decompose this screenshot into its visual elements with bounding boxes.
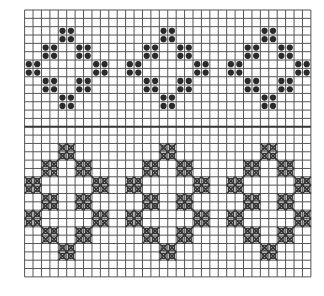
filled-dot-icon <box>101 69 107 75</box>
crossed-circle-icon <box>75 193 83 201</box>
crossed-circle-icon <box>168 252 176 260</box>
crossed-circle-icon <box>126 219 134 227</box>
crossed-circle-icon <box>244 202 252 210</box>
filled-dot-icon <box>245 78 251 84</box>
filled-dot-icon <box>85 44 91 50</box>
crossed-circle-icon <box>235 185 243 193</box>
crossed-circle-icon <box>84 193 92 201</box>
crossed-circle-icon <box>151 202 159 210</box>
crossed-circle-icon <box>75 160 83 168</box>
filled-dot-icon <box>236 61 242 67</box>
filled-dot-icon <box>144 78 150 84</box>
filled-dot-icon <box>34 61 40 67</box>
filled-dot-icon <box>152 53 158 59</box>
crossed-circle-icon <box>302 210 310 218</box>
filled-dot-icon <box>51 44 57 50</box>
crossed-circle-icon <box>50 227 58 235</box>
crossed-circle-icon <box>269 252 277 260</box>
crossed-circle-icon <box>159 152 167 160</box>
filled-dot-icon <box>270 103 276 109</box>
filled-dot-icon <box>26 69 32 75</box>
filled-dot-icon <box>261 36 267 42</box>
filled-dot-icon <box>43 53 49 59</box>
crossed-circle-icon <box>277 235 285 243</box>
crossed-circle-icon <box>252 202 260 210</box>
filled-dot-icon <box>127 61 133 67</box>
filled-dot-icon <box>194 61 200 67</box>
crossed-circle-icon <box>185 168 193 176</box>
filled-dot-icon <box>270 36 276 42</box>
filled-dot-icon <box>177 44 183 50</box>
crossed-circle-icon <box>126 210 134 218</box>
filled-dot-icon <box>287 86 293 92</box>
crossed-circle-icon <box>41 193 49 201</box>
crossed-circle-icon <box>286 202 294 210</box>
filled-dot-icon <box>186 78 192 84</box>
crossed-circle-icon <box>159 244 167 252</box>
crossed-circle-icon <box>142 160 150 168</box>
crossed-circle-icon <box>176 202 184 210</box>
crossed-circle-icon <box>244 227 252 235</box>
crossed-circle-icon <box>193 219 201 227</box>
crossed-circle-icon <box>260 152 268 160</box>
crossed-circle-icon <box>100 185 108 193</box>
crossed-circle-icon <box>159 143 167 151</box>
filled-dot-icon <box>85 78 91 84</box>
crossed-circle-icon <box>286 227 294 235</box>
filled-dot-icon <box>253 53 259 59</box>
filled-dot-icon <box>68 94 74 100</box>
crossed-circle-icon <box>58 152 66 160</box>
filled-dot-icon <box>186 44 192 50</box>
crossed-circle-icon <box>25 210 33 218</box>
crossed-circle-icon <box>151 160 159 168</box>
crossed-circle-icon <box>126 177 134 185</box>
crossed-circle-icon <box>235 219 243 227</box>
crossed-circle-icon <box>41 235 49 243</box>
crossed-circle-icon <box>252 168 260 176</box>
crossed-circle-icon <box>41 202 49 210</box>
crossed-circle-icon <box>75 202 83 210</box>
filled-dot-icon <box>228 69 234 75</box>
crossed-circle-icon <box>269 152 277 160</box>
filled-dot-icon <box>43 86 49 92</box>
crossed-circle-icon <box>168 143 176 151</box>
crossed-circle-icon <box>185 160 193 168</box>
crossed-circle-icon <box>33 185 41 193</box>
crossed-circle-icon <box>176 160 184 168</box>
crossed-circle-icon <box>302 219 310 227</box>
crossed-circle-icon <box>260 143 268 151</box>
filled-dot-icon <box>93 69 99 75</box>
crossed-circle-icon <box>277 168 285 176</box>
crossed-circle-icon <box>142 193 150 201</box>
crossed-circle-icon <box>277 227 285 235</box>
crossed-circle-icon <box>176 235 184 243</box>
filled-dot-icon <box>135 61 141 67</box>
crossed-circle-icon <box>134 210 142 218</box>
filled-dot-icon <box>278 78 284 84</box>
crossed-circle-icon <box>193 185 201 193</box>
filled-dot-icon <box>160 94 166 100</box>
crossed-circle-icon <box>159 252 167 260</box>
crossed-circle-icon <box>235 210 243 218</box>
filled-dot-icon <box>169 36 175 42</box>
filled-dot-icon <box>160 28 166 34</box>
filled-dot-icon <box>76 86 82 92</box>
crossed-circle-icon <box>151 227 159 235</box>
crossed-circle-icon <box>151 235 159 243</box>
filled-dot-icon <box>186 86 192 92</box>
filled-dot-icon <box>177 78 183 84</box>
crossed-circle-icon <box>244 160 252 168</box>
crossed-circle-icon <box>201 210 209 218</box>
filled-dot-icon <box>169 28 175 34</box>
filled-dot-icon <box>261 28 267 34</box>
crossed-circle-icon <box>302 185 310 193</box>
filled-dot-icon <box>160 103 166 109</box>
crossed-circle-icon <box>142 227 150 235</box>
filled-dot-icon <box>43 44 49 50</box>
filled-dot-icon <box>59 94 65 100</box>
filled-dot-icon <box>270 28 276 34</box>
filled-dot-icon <box>76 53 82 59</box>
filled-dot-icon <box>245 86 251 92</box>
crossed-circle-icon <box>252 193 260 201</box>
filled-dot-icon <box>85 53 91 59</box>
